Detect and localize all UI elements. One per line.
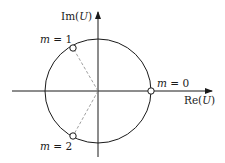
label-m1: m = 1 [40, 33, 72, 45]
point-m0 [148, 88, 154, 94]
imaginary-axis-label: Im(U) [61, 10, 92, 22]
unit-circle-diagram: Im(U) Re(U) m = 0 m = 1 m = 2 [0, 0, 225, 163]
radius-m2 [73, 91, 98, 136]
point-m2 [70, 133, 76, 139]
label-m2: m = 2 [40, 140, 72, 152]
radius-m1 [73, 48, 98, 91]
point-m1 [70, 45, 76, 51]
label-m0: m = 0 [157, 77, 189, 89]
real-axis-label: Re(U) [184, 94, 215, 106]
